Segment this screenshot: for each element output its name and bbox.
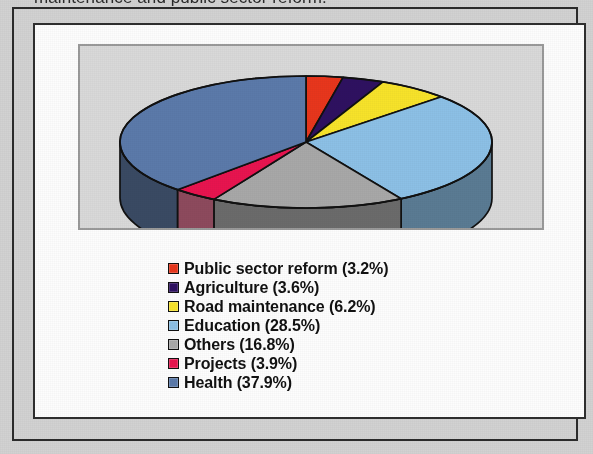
legend-swatch-others — [168, 339, 179, 350]
legend-item: Others (16.8%) — [168, 335, 498, 354]
pie-chart-plot-area — [78, 44, 544, 230]
legend-item: Road maintenance (6.2%) — [168, 297, 498, 316]
legend-item: Agriculture (3.6%) — [168, 278, 498, 297]
legend-item: Projects (3.9%) — [168, 354, 498, 373]
legend-label: Others (16.8%) — [184, 335, 295, 354]
legend-label: Health (37.9%) — [184, 373, 292, 392]
pie-chart-svg — [80, 46, 542, 228]
legend-swatch-road-maintenance — [168, 301, 179, 312]
legend-item: Public sector reform (3.2%) — [168, 259, 498, 278]
figure-outer-frame: Public sector reform (3.2%) Agriculture … — [12, 7, 578, 441]
legend-label: Projects (3.9%) — [184, 354, 297, 373]
legend-swatch-health — [168, 377, 179, 388]
legend-label: Public sector reform (3.2%) — [184, 259, 388, 278]
legend-label: Education (28.5%) — [184, 316, 320, 335]
legend-label: Agriculture (3.6%) — [184, 278, 319, 297]
legend-item: Education (28.5%) — [168, 316, 498, 335]
legend-label: Road maintenance (6.2%) — [184, 297, 376, 316]
legend-swatch-education — [168, 320, 179, 331]
figure-panel: Public sector reform (3.2%) Agriculture … — [33, 23, 586, 419]
legend-swatch-projects — [168, 358, 179, 369]
pie-chart — [80, 46, 542, 228]
legend-swatch-agriculture — [168, 282, 179, 293]
legend-item: Health (37.9%) — [168, 373, 498, 392]
chart-legend: Public sector reform (3.2%) Agriculture … — [168, 259, 498, 392]
legend-swatch-public-sector-reform — [168, 263, 179, 274]
